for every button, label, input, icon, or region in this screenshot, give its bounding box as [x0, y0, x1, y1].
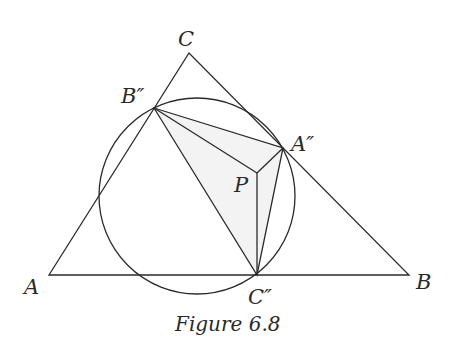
- pedal-triangle-shading: [154, 108, 283, 275]
- label-c2: C″: [248, 285, 272, 309]
- label-a2: A″: [289, 132, 314, 156]
- figure-canvas: C B″ A″ P A B C″ Figure 6.8: [0, 0, 455, 356]
- label-c: C: [178, 27, 194, 51]
- label-a: A: [22, 275, 39, 299]
- figure-caption: Figure 6.8: [174, 312, 281, 336]
- label-p: P: [233, 173, 249, 197]
- label-b2: B″: [120, 84, 144, 108]
- label-b: B: [415, 270, 431, 294]
